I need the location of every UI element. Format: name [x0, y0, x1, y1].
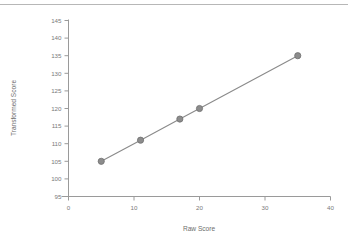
x-tick-label: 10 [131, 204, 138, 211]
data-point-marker [295, 53, 301, 59]
y-tick-label: 105 [51, 158, 62, 165]
y-tick-label: 145 [51, 17, 62, 24]
y-tick-label: 140 [51, 34, 62, 41]
x-axis-title: Raw Score [183, 225, 216, 232]
series-markers [98, 53, 301, 165]
x-tick-label: 0 [67, 204, 71, 211]
data-point-marker [137, 137, 143, 143]
data-series-group [98, 53, 301, 165]
y-tick-label: 110 [52, 140, 62, 147]
x-tick-label: 40 [327, 204, 334, 211]
y-tick-label: 115 [52, 122, 62, 129]
y-tick-label: 100 [51, 175, 62, 182]
chart-figure: 95100105110115120125130135140145 0102030… [0, 0, 348, 236]
y-tick-label: 135 [51, 52, 62, 59]
data-point-marker [98, 158, 104, 164]
y-tick-label: 120 [51, 105, 62, 112]
y-tick-label: 95 [55, 193, 62, 200]
y-tick-label: 130 [51, 70, 62, 77]
y-axis-ticks: 95100105110115120125130135140145 [51, 17, 68, 200]
x-tick-label: 20 [196, 204, 203, 211]
y-axis-title: Transformed Score [10, 80, 17, 137]
x-tick-label: 30 [262, 204, 269, 211]
data-point-marker [196, 105, 202, 111]
line-chart-canvas: 95100105110115120125130135140145 0102030… [0, 0, 348, 236]
axes-group [62, 20, 331, 197]
data-point-marker [177, 116, 183, 122]
y-tick-label: 125 [51, 87, 62, 94]
x-axis-ticks: 010203040 [67, 197, 335, 211]
